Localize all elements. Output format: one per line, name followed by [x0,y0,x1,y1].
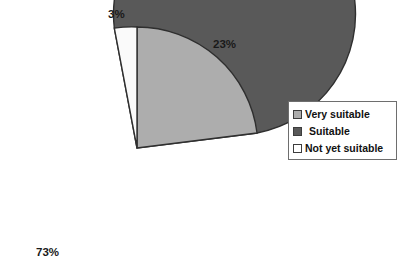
legend-label-not-yet-suitable: Not yet suitable [305,143,383,154]
legend-swatch-suitable [293,127,302,136]
legend-label-very-suitable: Very suitable [305,109,370,120]
legend-item-not-yet-suitable[interactable]: Not yet suitable [289,140,396,157]
legend-label-suitable: Suitable [305,126,350,137]
legend-item-very-suitable[interactable]: Very suitable [289,106,396,123]
legend-swatch-not-yet-suitable [293,144,302,153]
data-label-suitable: 73% [36,246,59,258]
chart-legend: Very suitable Suitable Not yet suitable [288,101,397,160]
data-label-very-suitable: 23% [213,38,236,50]
legend-item-suitable[interactable]: Suitable [289,123,396,140]
pie-slice-not-yet-suitable[interactable] [114,27,137,148]
pie-chart-figure: 3% 23% 73% Very suitable Suitable Not ye… [0,0,408,276]
data-label-not-yet-suitable: 3% [108,8,125,20]
legend-swatch-very-suitable [293,110,302,119]
